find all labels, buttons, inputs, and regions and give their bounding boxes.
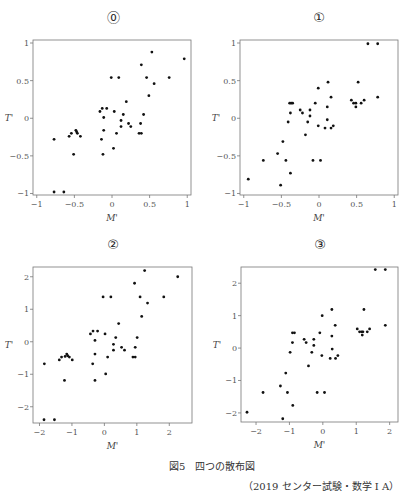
data-point bbox=[312, 338, 315, 341]
data-point bbox=[129, 125, 132, 128]
x-tick-label: −1 bbox=[66, 428, 78, 437]
data-point bbox=[326, 118, 329, 121]
data-point bbox=[287, 121, 290, 124]
data-point bbox=[91, 362, 94, 365]
data-point bbox=[284, 372, 287, 375]
panel-label: ③ bbox=[314, 237, 326, 252]
y-tick-label: −1 bbox=[225, 376, 237, 385]
figure-caption: 図5 四つの散布図 bbox=[169, 458, 255, 473]
x-tick-label: 0 bbox=[102, 428, 107, 437]
x-tick-label: −1 bbox=[238, 200, 250, 209]
y-tick-label: 2 bbox=[232, 279, 237, 288]
x-tick-label: 0 bbox=[316, 200, 321, 209]
data-point bbox=[68, 356, 71, 359]
plot-frame bbox=[241, 267, 398, 422]
data-point bbox=[94, 353, 97, 356]
y-tick-label: −1 bbox=[17, 370, 29, 379]
x-tick-label: −0.5 bbox=[65, 200, 84, 209]
x-tick-label: 1 bbox=[392, 200, 397, 209]
data-point bbox=[366, 330, 369, 333]
data-point bbox=[247, 178, 250, 181]
data-point bbox=[112, 349, 115, 352]
data-point bbox=[53, 191, 56, 194]
data-point bbox=[354, 106, 357, 109]
y-tick-label: 0.5 bbox=[223, 77, 236, 86]
data-point bbox=[106, 356, 109, 359]
y-axis-label: T' bbox=[5, 340, 13, 350]
data-point bbox=[299, 109, 302, 112]
data-point bbox=[122, 113, 125, 116]
y-tick-label: 0 bbox=[231, 114, 236, 123]
data-point bbox=[53, 138, 56, 141]
data-point bbox=[293, 331, 296, 334]
y-tick-label: 2 bbox=[24, 273, 29, 282]
data-point bbox=[324, 127, 327, 130]
x-tick-label: 2 bbox=[387, 427, 392, 436]
data-point bbox=[301, 112, 304, 115]
data-point bbox=[284, 159, 287, 162]
data-point bbox=[134, 356, 137, 359]
plot-frame bbox=[33, 40, 191, 195]
x-tick-label: −1 bbox=[31, 200, 43, 209]
source-caption: （2019 センター試験・数学 I A） bbox=[243, 478, 399, 493]
data-point bbox=[112, 343, 115, 346]
data-point bbox=[384, 268, 387, 271]
y-tick-label: 1 bbox=[24, 39, 29, 48]
data-point bbox=[147, 94, 150, 97]
y-tick-label: 1 bbox=[232, 312, 237, 321]
data-point bbox=[312, 344, 315, 347]
data-point bbox=[89, 333, 92, 336]
data-point bbox=[109, 296, 112, 299]
data-point bbox=[133, 282, 136, 285]
data-point bbox=[94, 339, 97, 342]
data-point bbox=[62, 191, 65, 194]
y-axis-label: T' bbox=[212, 113, 220, 123]
data-point bbox=[279, 385, 282, 388]
data-point bbox=[114, 336, 117, 339]
data-point bbox=[102, 153, 105, 156]
data-point bbox=[363, 308, 366, 311]
data-point bbox=[64, 355, 67, 358]
data-point bbox=[102, 129, 105, 132]
data-point bbox=[117, 322, 120, 325]
x-tick-label: 0.5 bbox=[143, 200, 156, 209]
data-point bbox=[356, 328, 359, 331]
data-point bbox=[327, 81, 330, 84]
y-tick-label: −2 bbox=[17, 403, 29, 412]
x-tick-label: 1 bbox=[354, 427, 359, 436]
data-point bbox=[168, 76, 171, 79]
data-point bbox=[362, 330, 365, 333]
data-point bbox=[354, 102, 357, 105]
data-point bbox=[334, 324, 337, 327]
data-point bbox=[262, 159, 265, 162]
data-point bbox=[153, 82, 156, 85]
data-point bbox=[309, 115, 312, 118]
panel-label: ⓪ bbox=[107, 10, 120, 25]
panel-label: ① bbox=[313, 10, 325, 25]
data-point bbox=[330, 127, 333, 130]
data-point bbox=[361, 334, 364, 337]
y-tick-label: −2 bbox=[225, 409, 237, 418]
y-axis-label: T' bbox=[213, 340, 221, 350]
data-point bbox=[92, 330, 95, 333]
data-point bbox=[43, 418, 46, 421]
y-tick-label: 0 bbox=[24, 114, 29, 123]
scatter-panel-2: ②−2−1012−2−1012M'T' bbox=[5, 237, 192, 451]
data-point bbox=[286, 391, 289, 394]
data-point bbox=[113, 110, 116, 113]
data-point bbox=[321, 314, 324, 317]
data-point bbox=[331, 348, 334, 351]
x-tick-label: 0 bbox=[109, 200, 114, 209]
y-tick-label: −0.5 bbox=[10, 152, 29, 161]
data-point bbox=[262, 391, 265, 394]
y-tick-label: 0.5 bbox=[16, 77, 29, 86]
data-point bbox=[304, 133, 307, 136]
data-point bbox=[140, 132, 143, 135]
data-point bbox=[363, 99, 366, 102]
data-point bbox=[112, 147, 115, 150]
x-axis-label: M' bbox=[313, 440, 326, 450]
data-point bbox=[330, 96, 333, 99]
data-point bbox=[334, 357, 337, 360]
y-tick-label: −1 bbox=[17, 189, 29, 198]
data-point bbox=[139, 122, 142, 125]
